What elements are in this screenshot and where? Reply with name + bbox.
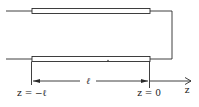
short-circuit-wire [150,11,172,59]
bottom-conductor [32,57,150,62]
length-label: ℓ [86,76,90,86]
length-arrow-left-icon [33,79,40,83]
transmission-line-diagram: ℓ z = −ℓ z = 0 z [0,0,199,107]
length-arrow-right-icon [141,79,148,83]
axis-label: z [185,85,190,95]
conductor-mark [107,60,108,61]
left-position-label: z = −ℓ [17,88,47,98]
top-conductor [32,9,150,14]
right-position-label: z = 0 [137,88,161,98]
